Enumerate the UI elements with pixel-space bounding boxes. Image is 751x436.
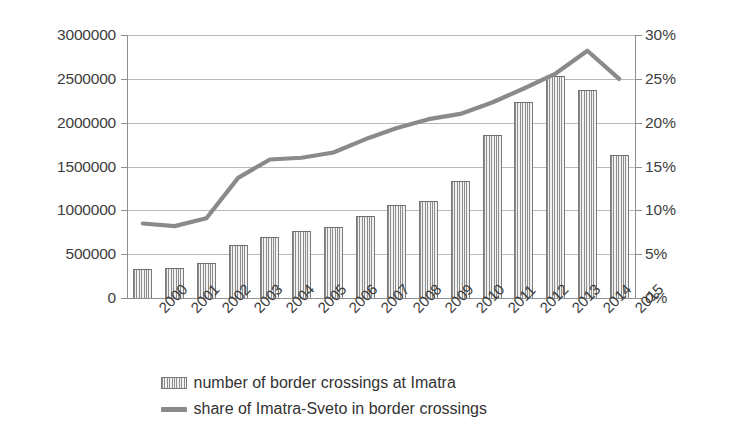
chart-legend: number of border crossings at Imatra sha…: [0, 370, 751, 422]
y-tick-left: [121, 123, 127, 124]
x-tick-label: 2006: [345, 304, 357, 316]
y-tick-label-left: 2000000: [57, 114, 116, 132]
y-tick-right: [636, 167, 642, 168]
bar-swatch-icon: [161, 377, 187, 389]
legend-item: share of Imatra-Sveto in border crossing…: [0, 396, 751, 422]
y-tick-left: [121, 167, 127, 168]
y-tick-right: [636, 254, 642, 255]
x-tick-label: 2005: [314, 304, 326, 316]
y-tick-left: [121, 298, 127, 299]
y-tick-label-right: 10%: [645, 201, 676, 219]
y-tick-label-right: 25%: [645, 70, 676, 88]
x-tick-label: 2002: [218, 304, 230, 316]
y-tick-label-left: 500000: [65, 245, 116, 263]
chart-container: 0500000100000015000002000000250000030000…: [0, 0, 751, 436]
x-tick-label: 2015: [631, 304, 643, 316]
y-tick-label-left: 3000000: [57, 26, 116, 44]
x-tick-label: 2014: [599, 304, 611, 316]
y-tick-label-right: 20%: [645, 114, 676, 132]
legend-label: number of border crossings at Imatra: [194, 374, 456, 392]
y-axis-left: [127, 35, 128, 299]
y-tick-right: [636, 79, 642, 80]
trend-line: [143, 51, 619, 226]
x-tick-label: 2008: [409, 304, 421, 316]
y-tick-left: [121, 79, 127, 80]
x-tick-label: 2012: [536, 304, 548, 316]
x-tick-label: 2001: [187, 304, 199, 316]
y-tick-right: [636, 123, 642, 124]
legend-item: number of border crossings at Imatra: [0, 370, 751, 396]
y-tick-label-left: 1500000: [57, 158, 116, 176]
plot-area: [127, 35, 635, 298]
x-axis-labels: 2000200120022003200420052006200720082009…: [127, 300, 635, 360]
y-tick-label-left: 2500000: [57, 70, 116, 88]
y-tick-label-left: 0: [108, 289, 116, 307]
x-tick-label: 2007: [377, 304, 389, 316]
y-tick-right: [636, 210, 642, 211]
line-series: [127, 35, 635, 298]
x-tick-label: 2009: [441, 304, 453, 316]
y-tick-label-left: 1000000: [57, 201, 116, 219]
x-tick-label: 2004: [282, 304, 294, 316]
y-tick-left: [121, 210, 127, 211]
x-tick-label: 2011: [504, 304, 516, 316]
y-tick-left: [121, 254, 127, 255]
x-tick-label: 2003: [250, 304, 262, 316]
y-tick-label-right: 30%: [645, 26, 676, 44]
x-tick-label: 2013: [568, 304, 580, 316]
x-tick-label: 2000: [155, 304, 167, 316]
legend-label: share of Imatra-Sveto in border crossing…: [194, 400, 487, 418]
y-tick-right: [636, 35, 642, 36]
line-swatch-icon: [161, 407, 187, 412]
y-tick-label-right: 15%: [645, 158, 676, 176]
y-tick-left: [121, 35, 127, 36]
y-tick-label-right: 5%: [645, 245, 667, 263]
x-tick-label: 2010: [472, 304, 484, 316]
